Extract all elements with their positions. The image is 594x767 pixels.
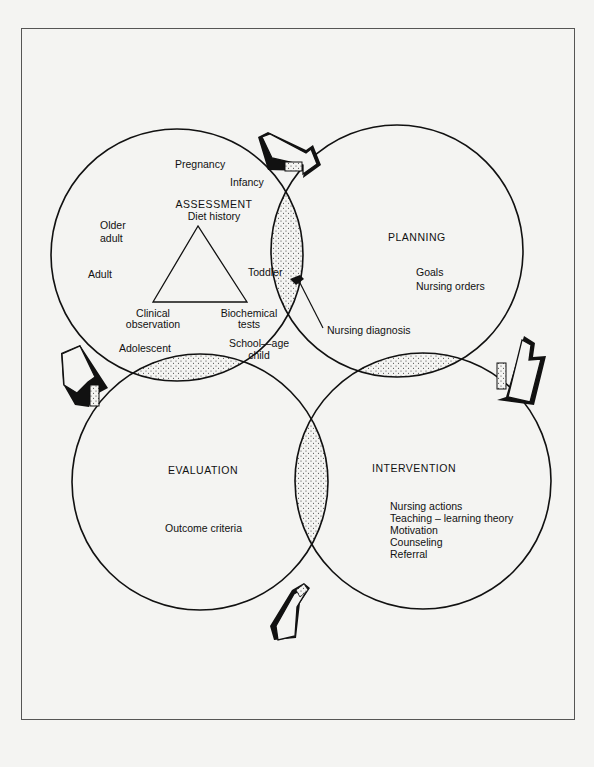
evaluation-item-outcome-criteria: Outcome criteria	[165, 522, 242, 534]
label-pregnancy: Pregnancy	[175, 158, 225, 170]
label-nursing-diagnosis: Nursing diagnosis	[327, 324, 410, 336]
label-school-age: School—age	[224, 337, 294, 349]
planning-item-goals: Goals	[416, 266, 443, 278]
arrow-assessment-to-planning-icon	[258, 132, 321, 178]
label-toddler: Toddler	[248, 266, 282, 278]
diet-history-label: Diet history	[170, 210, 258, 222]
evaluation-title: EVALUATION	[168, 464, 238, 476]
label-older-adult: adult	[100, 232, 123, 244]
evaluation-circle	[72, 354, 328, 610]
intervention-title: INTERVENTION	[372, 462, 456, 474]
intervention-item-counseling: Counseling	[390, 536, 443, 548]
intervention-item-motivation: Motivation	[390, 524, 438, 536]
intervention-item-nursing-actions: Nursing actions	[390, 500, 462, 512]
arrow-evaluation-to-assessment-icon	[61, 345, 108, 407]
arrow-intervention-to-evaluation-icon	[270, 583, 310, 640]
label-observation: observation	[118, 318, 188, 330]
label-infancy: Infancy	[230, 176, 264, 188]
arrow-planning-to-intervention-icon	[497, 336, 546, 405]
assessment-triangle	[153, 226, 247, 302]
intervention-item-referral: Referral	[390, 548, 427, 560]
planning-title: PLANNING	[388, 231, 446, 243]
assessment-title: ASSESSMENT	[170, 198, 258, 210]
intervention-item-teaching: Teaching – learning theory	[390, 512, 513, 524]
planning-item-nursing-orders: Nursing orders	[416, 280, 485, 292]
label-adult: Adult	[88, 268, 112, 280]
label-child: child	[224, 349, 294, 361]
label-tests: tests	[214, 318, 284, 330]
nursing-process-diagram	[0, 0, 594, 767]
overlap-assessment-evaluation	[72, 354, 328, 610]
label-adolescent: Adolescent	[119, 342, 171, 354]
label-older: Older	[100, 219, 126, 231]
